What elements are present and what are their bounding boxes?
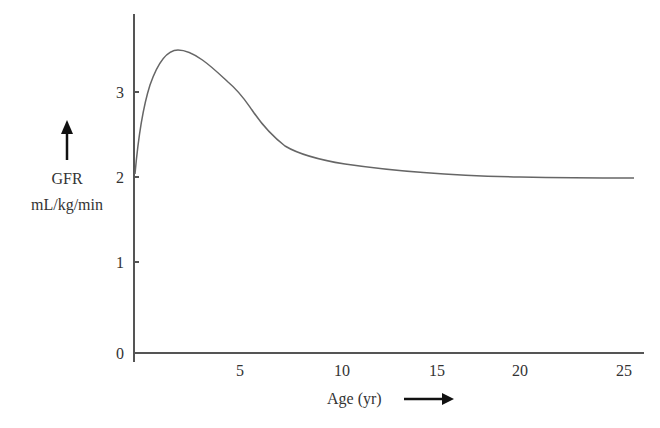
gfr-curve bbox=[135, 50, 634, 178]
x-tick-10: 10 bbox=[334, 362, 350, 379]
y-tick-1: 1 bbox=[116, 254, 124, 271]
y-axis-title-line1: GFR bbox=[51, 170, 82, 187]
x-tick-25: 25 bbox=[616, 362, 632, 379]
x-tick-5: 5 bbox=[236, 362, 244, 379]
y-axis-title-line2: mL/kg/min bbox=[31, 196, 103, 214]
gfr-chart: 3 2 1 0 5 10 15 20 25 GFR mL/kg/min Age … bbox=[0, 0, 660, 428]
x-tick-15: 15 bbox=[429, 362, 445, 379]
arrow-right-icon bbox=[404, 393, 454, 405]
y-tick-0: 0 bbox=[116, 345, 124, 362]
y-tick-3: 3 bbox=[116, 84, 124, 101]
x-axis-title: Age (yr) bbox=[327, 390, 382, 408]
arrow-up-icon bbox=[61, 120, 73, 160]
x-tick-20: 20 bbox=[512, 362, 528, 379]
y-tick-2: 2 bbox=[116, 169, 124, 186]
